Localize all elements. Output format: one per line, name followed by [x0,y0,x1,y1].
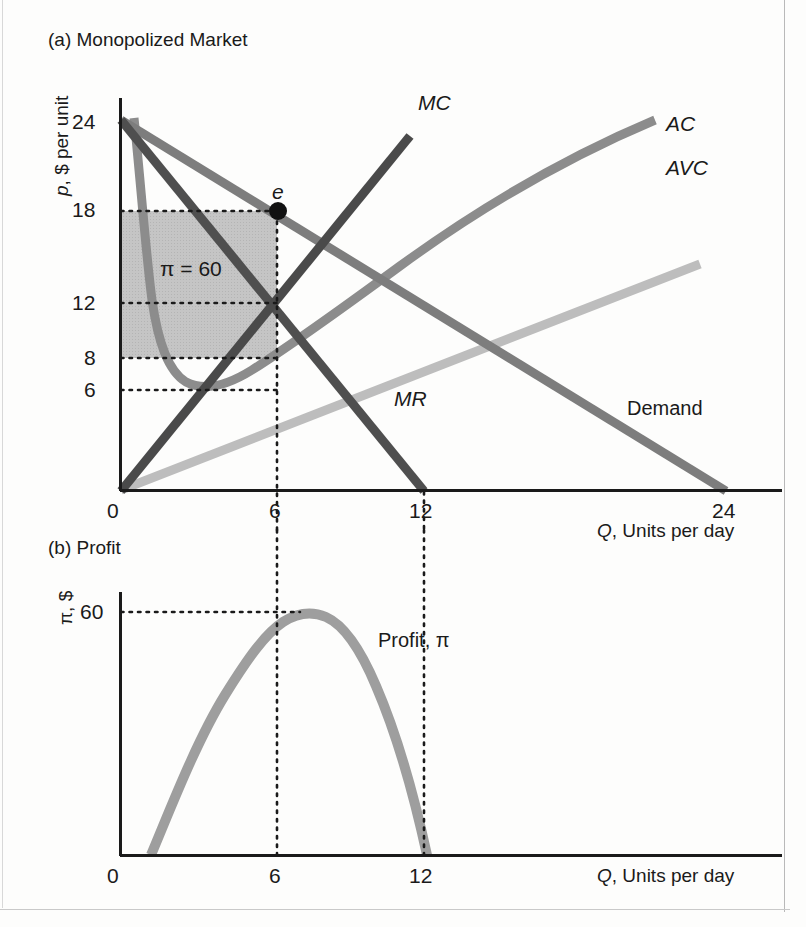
panel-a-ytick-18: 18 [72,199,95,220]
panel-a-y-axis-title: p, $ per unit [52,96,71,196]
panel-a-ytick-6: 6 [84,379,96,400]
panel-a-ytick-24: 24 [72,111,95,132]
panel-b-title: (b) Profit [48,538,121,557]
panel-b-ytick-60: 60 [80,601,103,622]
mr-curve-label: MR [394,388,427,409]
panel-b-y-axis-title: π, $ [56,591,75,625]
panel-a-ytick-8: 8 [84,347,96,368]
panel-b-axes [120,592,782,856]
avc-curve-label: AVC [666,157,708,178]
demand-curve-label: Demand [627,398,703,418]
equilibrium-point-label: e [272,181,284,202]
panel-a-xtick-6: 6 [269,500,281,521]
panel-a-title: (a) Monopolized Market [48,30,248,49]
panel-b-xtick-0: 0 [107,865,119,886]
panel-a-xtick-24: 24 [712,500,735,521]
panel-a-ytick-12: 12 [72,292,95,313]
equilibrium-point-e [269,202,287,220]
panel-b-x-axis-title: Q, Units per day [597,866,734,885]
figure-page: (a) Monopolized Market p, $ per unit 24 … [0,0,806,927]
panel-b-xtick-12: 12 [409,865,432,886]
economics-figure-svg [0,0,806,927]
ac-curve-label: AC [666,113,695,134]
panel-a-y-axis-title-rest: , $ per unit [51,96,72,186]
mc-curve-label: MC [418,92,451,113]
profit-area-label: π = 60 [160,258,222,279]
panel-a-xtick-0: 0 [107,500,119,521]
profit-curve-label: Profit, π [378,630,450,650]
panel-a-xtick-12: 12 [409,500,432,521]
panel-b-xtick-6: 6 [269,865,281,886]
panel-a-x-axis-title: Q, Units per day [597,521,734,540]
